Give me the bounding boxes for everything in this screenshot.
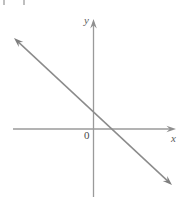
origin-label: 0 <box>84 130 90 141</box>
coordinate-plane-figure: y x 0 <box>0 0 182 201</box>
graph-canvas <box>0 0 182 201</box>
axes-group <box>13 19 176 197</box>
x-axis-label: x <box>171 133 176 144</box>
y-axis-label: y <box>84 15 89 26</box>
